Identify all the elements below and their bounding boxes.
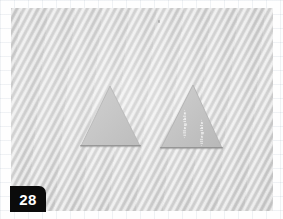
print-speck-artifact (158, 20, 160, 23)
right-specimen-legend-primary: ·illegible· (182, 109, 187, 138)
figure-plate: ·illegible· ·illegible· 28 (0, 0, 283, 219)
left-specimen-triangle (67, 76, 145, 152)
right-specimen-triangle (147, 74, 229, 154)
right-specimen-base-shadow (160, 147, 223, 150)
right-specimen: ·illegible· ·illegible· (147, 74, 229, 154)
left-specimen (67, 76, 145, 152)
photograph: ·illegible· ·illegible· (11, 8, 273, 211)
plate-number-badge: 28 (10, 186, 46, 212)
right-specimen-legend-secondary: ·illegible· (199, 119, 204, 146)
left-specimen-base-shadow (80, 145, 141, 148)
plate-number: 28 (19, 192, 37, 207)
